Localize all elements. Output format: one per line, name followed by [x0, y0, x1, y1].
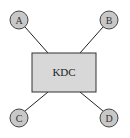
link-d-kdc — [80, 92, 103, 111]
node-c: C — [10, 109, 28, 127]
node-a: A — [10, 11, 28, 29]
link-c-kdc — [25, 92, 48, 111]
link-a-kdc — [25, 27, 48, 53]
kdc-diagram: KDC A B C D — [0, 0, 130, 138]
node-d: D — [100, 109, 118, 127]
kdc-box: KDC — [32, 53, 96, 92]
node-d-label: D — [105, 113, 112, 124]
node-a-label: A — [15, 15, 23, 26]
node-c-label: C — [16, 113, 23, 124]
link-b-kdc — [80, 27, 103, 53]
node-b-label: B — [106, 15, 113, 26]
node-b: B — [100, 11, 118, 29]
kdc-label: KDC — [52, 66, 75, 78]
